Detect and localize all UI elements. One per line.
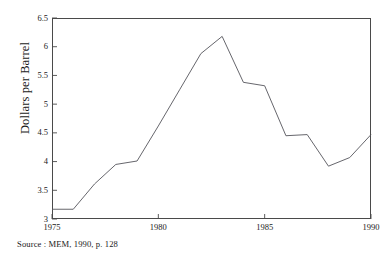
source-note: Source : MEM, 1990, p. 128	[17, 239, 118, 249]
x-axis-tick-labels: 1975198019851990	[0, 0, 391, 258]
figure-container: Dollars per Barrel 33.544.555.566.5 1975…	[0, 0, 391, 258]
x-tick-label: 1990	[351, 222, 391, 232]
x-tick-label: 1985	[245, 222, 285, 232]
x-tick-label: 1980	[138, 222, 178, 232]
x-tick-label: 1975	[32, 222, 72, 232]
